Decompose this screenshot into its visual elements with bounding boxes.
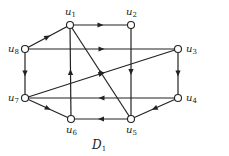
node-u2 xyxy=(128,22,135,29)
label-u7: u7 xyxy=(8,92,19,105)
node-u8 xyxy=(22,46,29,53)
arrowhead-icon xyxy=(175,71,180,77)
label-u2: u2 xyxy=(126,6,137,19)
edges xyxy=(22,22,180,121)
label-u5: u5 xyxy=(126,124,137,137)
label-u8: u8 xyxy=(8,43,19,56)
node-u3 xyxy=(175,46,182,53)
directed-graph-d1: u1u2u3u4u5u6u7u8 D1 xyxy=(0,0,229,156)
arrowhead-icon xyxy=(98,22,104,27)
label-u6: u6 xyxy=(66,124,77,137)
label-u1: u1 xyxy=(65,6,76,19)
arrowhead-icon xyxy=(99,95,105,100)
arrowhead-icon xyxy=(22,71,27,77)
node-u5 xyxy=(128,116,135,123)
arrowhead-icon xyxy=(99,46,105,51)
node-u7 xyxy=(22,95,29,102)
arrowhead-icon xyxy=(128,69,133,75)
arrowhead-icon xyxy=(98,116,104,121)
arrowhead-icon xyxy=(68,69,73,75)
graph-title: D1 xyxy=(91,138,106,153)
node-u1 xyxy=(67,22,74,29)
node-u6 xyxy=(68,116,75,123)
label-u3: u3 xyxy=(186,43,197,56)
label-u4: u4 xyxy=(186,92,197,105)
node-u4 xyxy=(175,95,182,102)
